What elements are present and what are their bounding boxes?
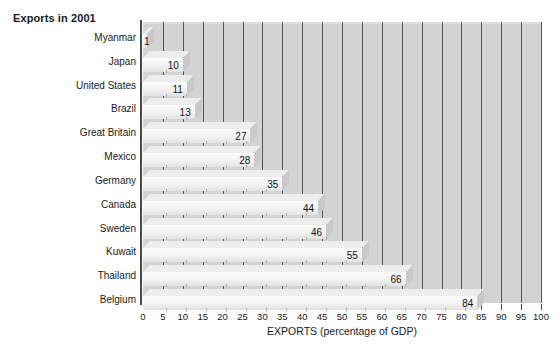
- bar-gridline-notch: [166, 284, 167, 287]
- bar-gridline-notch: [286, 284, 287, 287]
- bar-gridline-notch: [226, 237, 227, 240]
- bar-gridline-notch: [226, 189, 227, 192]
- bar-gridline-notch: [166, 94, 167, 97]
- bar-top-face: [143, 75, 194, 82]
- bar-gridline-notch: [286, 260, 287, 263]
- bar-gridline-notch: [266, 284, 267, 287]
- bar-gridline-notch: [246, 165, 247, 168]
- bar-gridline-notch: [346, 260, 347, 263]
- bar-gridline-notch: [306, 237, 307, 240]
- bar-gridline-notch: [186, 308, 187, 311]
- bar-gridline-notch: [246, 213, 247, 216]
- bar-series: 11011132728354446556684: [0, 0, 556, 345]
- bar-gridline-notch: [206, 260, 207, 263]
- bar-gridline-notch: [266, 189, 267, 192]
- bar-gridline-notch: [326, 237, 327, 240]
- bar-gridline-notch: [206, 189, 207, 192]
- bar-top-face: [143, 146, 261, 153]
- bar-front-face: [143, 296, 477, 310]
- bar-gridline-notch: [166, 308, 167, 311]
- bar-gridline-notch: [346, 308, 347, 311]
- bar-top-face: [143, 265, 413, 272]
- bar-gridline-notch: [346, 284, 347, 287]
- bar-gridline-notch: [186, 213, 187, 216]
- bar-top-face: [143, 122, 257, 129]
- bar-gridline-notch: [246, 308, 247, 311]
- bar-gridline-notch: [306, 284, 307, 287]
- bar-top-face: [143, 289, 484, 296]
- bar-gridline-notch: [166, 260, 167, 263]
- bar-gridline-notch: [306, 308, 307, 311]
- bar-gridline-notch: [226, 260, 227, 263]
- bar-gridline-notch: [166, 213, 167, 216]
- bar-value-label: 84: [451, 298, 473, 309]
- bar-gridline-notch: [186, 94, 187, 97]
- bar-gridline-notch: [186, 260, 187, 263]
- bar-gridline-notch: [206, 141, 207, 144]
- bar-gridline-notch: [266, 237, 267, 240]
- bar-gridline-notch: [246, 141, 247, 144]
- bar-gridline-notch: [166, 237, 167, 240]
- bar-value-label: 27: [224, 131, 246, 142]
- bar: [143, 265, 414, 287]
- bar-value-label: 10: [157, 60, 179, 71]
- bar-gridline-notch: [186, 189, 187, 192]
- bar-value-label: 13: [169, 107, 191, 118]
- bar-gridline-notch: [445, 308, 446, 311]
- bar-gridline-notch: [365, 308, 366, 311]
- bar-gridline-notch: [286, 213, 287, 216]
- bar-top-face: [143, 241, 369, 248]
- bar-gridline-notch: [286, 237, 287, 240]
- bar-gridline-notch: [326, 284, 327, 287]
- bar-value-label: 55: [336, 250, 358, 261]
- bar-gridline-notch: [226, 141, 227, 144]
- bar: [143, 289, 485, 311]
- bar-gridline-notch: [266, 213, 267, 216]
- bar-gridline-notch: [186, 141, 187, 144]
- bar-gridline-notch: [186, 117, 187, 120]
- exports-bar-chart: Exports in 2001 051015202530354045505560…: [0, 0, 556, 345]
- bar-top-face: [143, 194, 325, 201]
- bar-gridline-notch: [226, 308, 227, 311]
- bar-gridline-notch: [405, 284, 406, 287]
- bar-gridline-notch: [306, 260, 307, 263]
- bar-gridline-notch: [405, 308, 406, 311]
- bar-front-face: [143, 225, 326, 239]
- bar-top-face: [143, 218, 333, 225]
- bar-gridline-notch: [306, 213, 307, 216]
- bar-gridline-notch: [186, 284, 187, 287]
- x-axis-title: EXPORTS (percentage of GDP): [143, 325, 541, 337]
- bar-gridline-notch: [206, 165, 207, 168]
- bar-value-label: 11: [161, 84, 183, 95]
- bar-gridline-notch: [206, 237, 207, 240]
- bar-top-face: [143, 98, 202, 105]
- bar-gridline-notch: [266, 308, 267, 311]
- bar-gridline-notch: [286, 308, 287, 311]
- bar-gridline-notch: [246, 260, 247, 263]
- bar-gridline-notch: [206, 308, 207, 311]
- bar-gridline-notch: [206, 284, 207, 287]
- bar-gridline-notch: [186, 237, 187, 240]
- bar-gridline-notch: [166, 70, 167, 73]
- bar-gridline-notch: [246, 189, 247, 192]
- bar-gridline-notch: [385, 284, 386, 287]
- bar-value-label: 44: [292, 203, 314, 214]
- bar-top-face: [143, 170, 289, 177]
- bar-value-label: 66: [380, 274, 402, 285]
- bar-gridline-notch: [226, 213, 227, 216]
- bar-gridline-notch: [166, 117, 167, 120]
- bar-gridline-notch: [226, 165, 227, 168]
- bar-gridline-notch: [266, 260, 267, 263]
- bar-gridline-notch: [166, 189, 167, 192]
- bar-gridline-notch: [226, 284, 227, 287]
- bar-value-label: 28: [228, 155, 250, 166]
- bar-gridline-notch: [186, 165, 187, 168]
- bar-gridline-notch: [166, 141, 167, 144]
- bar-gridline-notch: [465, 308, 466, 311]
- bar-gridline-notch: [425, 308, 426, 311]
- bar-gridline-notch: [206, 213, 207, 216]
- bar-value-label: 35: [256, 179, 278, 190]
- bar-gridline-notch: [326, 308, 327, 311]
- bar-gridline-notch: [326, 260, 327, 263]
- bar-gridline-notch: [246, 284, 247, 287]
